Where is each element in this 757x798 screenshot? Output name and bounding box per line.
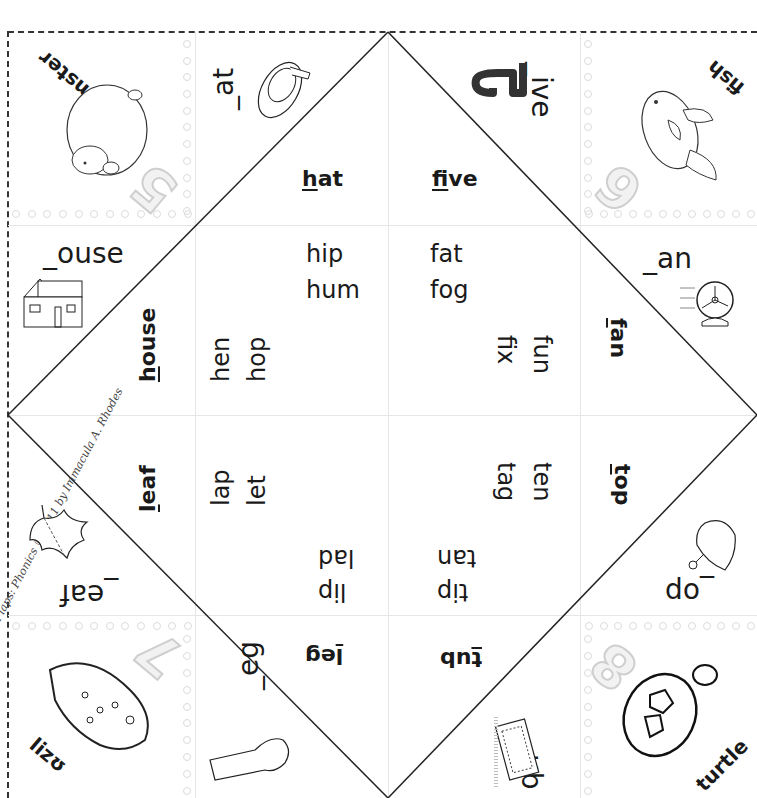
dot-border-bottomleft-v [183,635,193,795]
flap-word-leaf: leaf [137,465,159,512]
inner-word-fix: fix [494,335,518,364]
inner-word-fat: fat [430,242,463,266]
flap-prompt-leg: _eg [235,641,263,690]
house-picture-icon [22,275,87,335]
flap-prompt-top: _op [665,578,714,606]
spinning-top-picture-icon [685,515,740,575]
inner-word-tan: tan [437,546,476,570]
flap-word-hat: hat [302,168,343,190]
dot-border-bottomright-h [585,622,755,632]
inner-word-lip: lip [318,580,347,604]
inner-word-hum: hum [306,278,360,302]
inner-word-hip: hip [306,242,343,266]
inner-word-tip: tip [437,580,468,604]
flap-word-fan: fan [607,318,629,358]
inner-word-lap: lap [209,469,233,506]
leaf-picture-icon [22,500,92,570]
leg-picture-icon [205,735,300,785]
flap-word-top: top [611,464,633,505]
flap-word-house: house [137,308,159,382]
flap-prompt-house: _ouse [43,240,124,268]
fortune-teller-sheet: hamster 5 fish 6 lizʊ 7 Fun Flaps: Phoni… [0,0,757,798]
inner-word-fun: fun [530,335,554,374]
inner-word-tag: tag [494,462,518,501]
inner-word-lad: lad [318,546,355,570]
dot-border-topleft-h [12,210,192,220]
bathtub-picture-icon [492,712,552,792]
inner-word-hen: hen [209,337,233,382]
flap-word-tub: tub [440,648,482,670]
inner-word-ten: ten [530,462,554,501]
inner-word-let: let [245,475,269,506]
hat-picture-icon [250,55,320,125]
flap-word-five: five [432,168,478,190]
fan-picture-icon [680,278,750,333]
flap-prompt-leaf: _eaf [60,580,118,608]
number-five-picture-icon [468,58,528,98]
dot-border-topleft-v [183,40,193,215]
hamster-picture-icon [55,75,155,185]
inner-word-fog: fog [430,278,468,302]
flap-word-leg: leg [305,645,343,667]
flap-prompt-five: _ive [527,62,555,118]
inner-word-hop: hop [245,337,269,382]
flap-prompt-fan: _an [643,245,692,273]
flap-prompt-hat: _at [210,68,238,110]
dot-border-bottomright-v [584,635,594,795]
